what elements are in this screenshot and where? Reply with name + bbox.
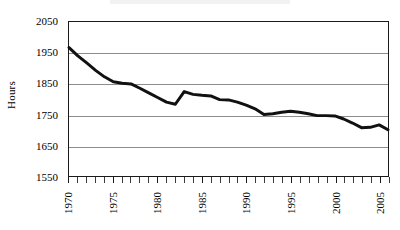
x-tick-label: 1980: [150, 183, 164, 225]
x-tick-label: 1995: [284, 183, 298, 225]
x-tick-label-text: 2005: [374, 192, 386, 214]
x-tick-mark: [389, 177, 390, 183]
x-tick-label: 2005: [373, 183, 387, 225]
x-tick-label-text: 1970: [62, 192, 74, 214]
y-tick-label: 1750: [36, 109, 58, 120]
hours-worked-line-chart: Hours 205019501850175016501550 197019751…: [0, 0, 400, 230]
x-tick-label: 2000: [329, 183, 343, 225]
series-line: [69, 22, 388, 176]
x-tick-label-text: 2000: [330, 192, 342, 214]
series-polyline: [69, 48, 388, 130]
y-axis-title-label: Hours: [5, 81, 17, 109]
scan-artifact: [110, 0, 290, 4]
y-tick-label: 2050: [36, 16, 58, 27]
x-tick-label-text: 1990: [240, 192, 252, 214]
y-tick-label: 1550: [36, 172, 58, 183]
y-tick-label: 1950: [36, 47, 58, 58]
x-axis-tick-labels: 19701975198019851990199520002005: [68, 183, 389, 228]
y-axis-title: Hours: [0, 0, 22, 190]
x-tick-label-text: 1975: [107, 192, 119, 214]
x-tick-label-text: 1980: [151, 192, 163, 214]
x-tick-label-text: 1985: [196, 192, 208, 214]
x-tick-label: 1990: [239, 183, 253, 225]
x-tick-label: 1985: [195, 183, 209, 225]
x-tick-label-text: 1995: [285, 192, 297, 214]
y-tick-label: 1650: [36, 140, 58, 151]
plot-area: [68, 21, 389, 177]
y-tick-label: 1850: [36, 78, 58, 89]
x-tick-label: 1975: [106, 183, 120, 225]
y-axis-tick-labels: 205019501850175016501550: [24, 0, 64, 190]
x-tick-label: 1970: [61, 183, 75, 225]
